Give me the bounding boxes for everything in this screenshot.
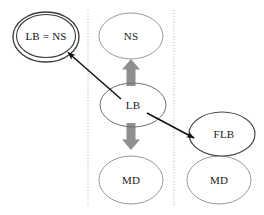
node-flb[interactable]: FLB: [189, 112, 255, 156]
node-ns[interactable]: NS: [99, 13, 163, 59]
arrow-lb-to-lbns-line: [68, 53, 121, 100]
node-ns-label: NS: [124, 30, 138, 42]
arrow-lb-to-lbns[interactable]: [68, 53, 121, 100]
arrow-lb-to-flb-line: [147, 113, 194, 138]
node-md-right-label: MD: [210, 174, 228, 186]
node-md-right[interactable]: MD: [187, 156, 251, 204]
node-flb-label: FLB: [214, 128, 235, 140]
block-arrow-up-icon: [122, 59, 140, 86]
diagram-canvas: NS MD MD LB FLB: [0, 0, 264, 215]
node-md-middle[interactable]: MD: [99, 156, 163, 204]
diagram-svg: NS MD MD LB FLB: [0, 0, 264, 215]
node-md-middle-label: MD: [122, 174, 140, 186]
node-lb-label: LB: [126, 99, 140, 111]
node-lb-ns[interactable]: LB = NS: [13, 12, 79, 62]
node-lb-ns-label: LB = NS: [25, 30, 66, 42]
arrow-lb-to-flb[interactable]: [147, 113, 194, 138]
